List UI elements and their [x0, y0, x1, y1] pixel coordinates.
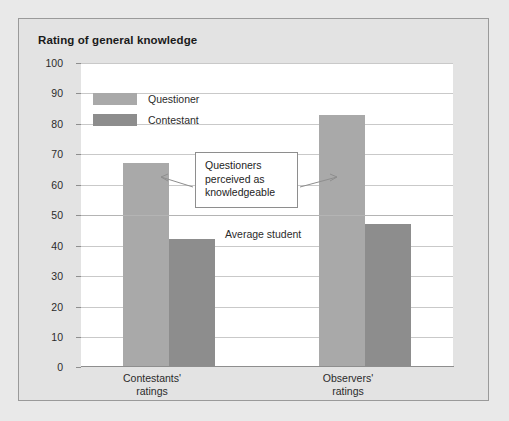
y-axis-tick-70: 70	[23, 148, 63, 160]
legend-label-questioner: Questioner	[148, 93, 199, 105]
y-axis-tick-60: 60	[23, 179, 63, 191]
bar-questioner-contestants-ratings	[123, 163, 169, 366]
legend-swatch-contestant	[93, 114, 137, 126]
y-axis-tick-100: 100	[23, 57, 63, 69]
legend-swatch-questioner	[93, 93, 137, 105]
y-axis-tick-50: 50	[23, 209, 63, 221]
x-axis-label-line-2: ratings	[102, 385, 202, 398]
x-axis-label-contestants-ratings: Contestants' ratings	[102, 372, 202, 398]
bar-contestant-contestants-ratings	[169, 239, 215, 366]
legend-label-contestant: Contestant	[148, 114, 199, 126]
callout-line-2: perceived as	[205, 173, 289, 187]
chart-panel: Rating of general knowledge 100 90 80 70…	[18, 18, 489, 401]
x-axis-line	[81, 366, 454, 367]
y-axis-tick-80: 80	[23, 118, 63, 130]
x-axis-label-line-2: ratings	[298, 385, 398, 398]
legend-item-contestant: Contestant	[93, 113, 199, 126]
x-axis-label-line-1: Observers'	[298, 372, 398, 385]
callout-line-1: Questioners	[205, 159, 289, 173]
bar-contestant-observers-ratings	[365, 224, 411, 366]
gridline-100	[81, 63, 453, 64]
y-axis-tick-40: 40	[23, 240, 63, 252]
legend: Questioner Contestant	[93, 92, 199, 134]
bar-questioner-observers-ratings	[319, 115, 365, 366]
y-axis-tick-30: 30	[23, 270, 63, 282]
y-axis-tick-20: 20	[23, 301, 63, 313]
y-tick-mark	[76, 367, 81, 368]
x-axis-label-observers-ratings: Observers' ratings	[298, 372, 398, 398]
callout-annotation: Questioners perceived as knowledgeable	[195, 152, 298, 208]
average-student-reference-line	[81, 215, 453, 216]
y-axis-tick-0: 0	[23, 361, 63, 373]
x-axis-label-line-1: Contestants'	[102, 372, 202, 385]
y-axis-tick-10: 10	[23, 331, 63, 343]
callout-line-3: knowledgeable	[205, 186, 289, 200]
y-axis-tick-90: 90	[23, 87, 63, 99]
average-student-label: Average student	[225, 228, 301, 240]
legend-item-questioner: Questioner	[93, 92, 199, 105]
chart-title: Rating of general knowledge	[38, 34, 197, 46]
